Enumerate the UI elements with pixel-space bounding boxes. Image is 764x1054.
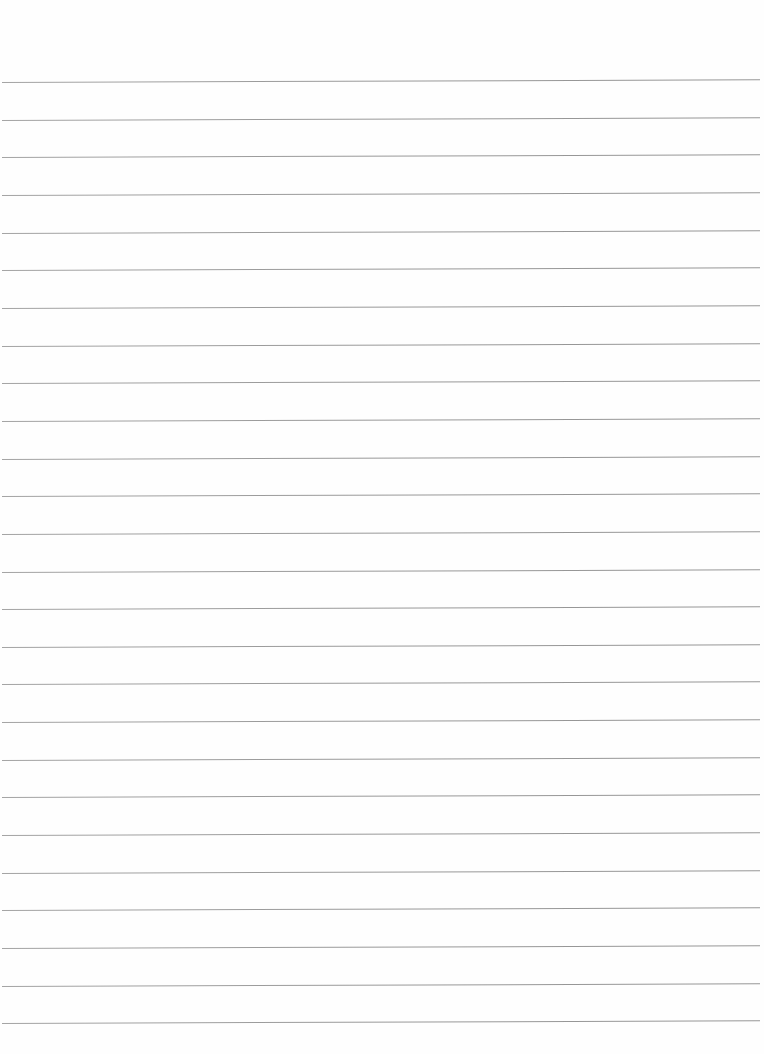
ruled-line (2, 719, 760, 723)
ruled-line (2, 381, 760, 385)
ruled-line (2, 1021, 760, 1025)
ruled-line (2, 644, 760, 648)
ruled-line (2, 569, 760, 573)
ruled-line (2, 117, 760, 121)
ruled-line (2, 456, 760, 460)
ruled-line (2, 606, 760, 610)
ruled-line (2, 908, 760, 912)
ruled-line (2, 343, 760, 347)
lined-paper-page (0, 0, 764, 1054)
ruled-line (2, 79, 760, 83)
ruled-line (2, 870, 760, 874)
ruled-line (2, 268, 760, 272)
ruled-line (2, 192, 760, 196)
ruled-line (2, 795, 760, 799)
ruled-line (2, 832, 760, 836)
ruled-line (2, 757, 760, 761)
ruled-line (2, 493, 760, 497)
ruled-line (2, 983, 760, 987)
ruled-line (2, 531, 760, 535)
ruled-line (2, 682, 760, 686)
ruled-line (2, 305, 760, 309)
ruled-line (2, 230, 760, 234)
ruled-line (2, 418, 760, 422)
ruled-line (2, 155, 760, 159)
ruled-line (2, 945, 760, 949)
